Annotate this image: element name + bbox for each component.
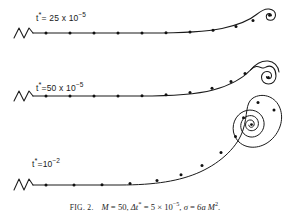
caption-dt-star: * (138, 200, 141, 207)
caption-dt-times: × (157, 202, 162, 212)
curve-3-break-zigzag (14, 179, 33, 190)
caption-m-equals: = (111, 202, 116, 212)
caption-dt-base: 10 (164, 202, 173, 212)
curve-1-label-exponent: −5 (79, 11, 86, 18)
curve-3-group (14, 95, 282, 190)
curve-2-break-zigzag (14, 91, 33, 101)
caption-fig-label: FIG. 2. (70, 203, 94, 212)
caption-sigma-m: M (208, 202, 215, 212)
curve-3-label: t*=10−2 (32, 156, 60, 169)
caption-m-value: 50, (118, 202, 129, 212)
caption-period: . (218, 202, 220, 212)
curve-3-label-equals: =10 (37, 159, 52, 169)
caption-sigma-value: 6a (197, 202, 206, 212)
figure-caption: FIG. 2. M = 50, Δt* = 5 × 10−5, σ = 6a M… (0, 200, 290, 212)
figure-container: t*= 25 x 10−5 t*=50 x 10−5 t*=10−2 FIG. … (0, 0, 290, 221)
curve-1-break-zigzag (14, 28, 33, 38)
caption-sigma-equals: = (190, 202, 195, 212)
curve-2-label: t*=50 x 10−5 (36, 80, 83, 93)
vortex-sheet-plot (0, 0, 290, 221)
caption-m-symbol: M (102, 202, 109, 212)
caption-dt-mantissa: 5 (151, 202, 155, 212)
caption-dt-equals: = (144, 202, 149, 212)
curve-1-label: t*= 25 x 10−5 (36, 10, 86, 23)
curve-3-sheet (33, 95, 282, 185)
curve-3-label-exponent: −2 (53, 157, 60, 164)
curve-2-label-equals: =50 x 10 (41, 83, 75, 93)
curve-1-label-equals: = 25 x 10 (41, 13, 78, 23)
caption-dt-comma: , (179, 202, 181, 212)
caption-sigma-symbol: σ (184, 202, 188, 212)
curve-2-label-exponent: −5 (76, 81, 83, 88)
